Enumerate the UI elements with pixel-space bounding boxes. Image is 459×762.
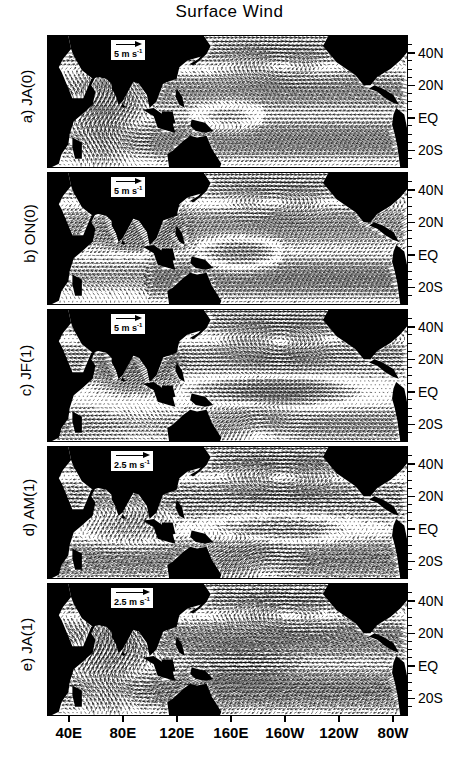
scale-label-b: 5 m s-1 xyxy=(114,185,142,197)
lat-tick-minor xyxy=(408,649,412,650)
lat-tick-minor xyxy=(408,367,412,368)
lat-tick-minor xyxy=(408,399,412,400)
map-panel-c xyxy=(47,309,408,442)
lat-tick xyxy=(408,52,415,54)
wind-vector-map xyxy=(48,310,407,441)
lat-tick-minor xyxy=(408,238,412,239)
lat-tick-minor xyxy=(408,682,412,683)
lat-tick xyxy=(408,326,415,328)
lat-tick xyxy=(408,424,415,426)
lat-tick-minor xyxy=(408,351,412,352)
scale-arrow-e-icon xyxy=(114,589,150,596)
lat-tick-label: 20S xyxy=(418,416,443,432)
lat-tick-minor xyxy=(408,488,412,489)
lat-tick-label: 20S xyxy=(418,690,443,706)
lat-tick-minor xyxy=(408,375,412,376)
panel-label-b-text: b) ON(0) xyxy=(21,204,38,262)
lat-tick-minor xyxy=(408,625,412,626)
lat-tick-minor xyxy=(408,569,412,570)
lat-tick xyxy=(408,633,415,635)
panel-label-d: d) AM(1) xyxy=(0,499,44,516)
lat-tick-minor xyxy=(408,44,412,45)
lat-tick xyxy=(408,391,415,393)
lat-tick-minor xyxy=(408,142,412,143)
panel-label-b: b) ON(0) xyxy=(0,225,44,242)
lat-tick-label: 40N xyxy=(418,456,444,472)
lon-axis: 40E80E120E160E160W120W80W xyxy=(0,716,459,756)
map-panel-e xyxy=(47,583,408,716)
map-panel-a xyxy=(47,35,408,168)
lat-tick-minor xyxy=(408,77,412,78)
lat-tick-label: EQ xyxy=(418,247,438,263)
lat-axis-d: 40N20NEQ20S xyxy=(408,446,458,579)
lat-tick-minor xyxy=(408,536,412,537)
lat-axis-a: 40N20NEQ20S xyxy=(408,35,458,168)
lat-tick-minor xyxy=(408,690,412,691)
panel-label-c-text: c) JF(1) xyxy=(17,345,34,397)
lat-tick-minor xyxy=(408,181,412,182)
lat-tick-minor xyxy=(408,455,412,456)
lon-tick xyxy=(338,716,340,722)
scale-arrow-a-icon xyxy=(114,41,142,48)
lat-tick-label: 20N xyxy=(418,351,444,367)
lat-tick-minor xyxy=(408,416,412,417)
panel-label-c: c) JF(1) xyxy=(0,362,44,379)
vector-scale-a: 5 m s-1 xyxy=(110,39,146,61)
lat-tick-minor xyxy=(408,408,412,409)
scale-label-a: 5 m s-1 xyxy=(114,48,142,60)
lat-axis-b: 40N20NEQ20S xyxy=(408,172,458,305)
lon-tick-label: 160W xyxy=(265,724,304,741)
lat-tick xyxy=(408,496,415,498)
lon-tick-label: 40E xyxy=(55,724,82,741)
panel-label-e-text: e) JA(1) xyxy=(18,618,35,671)
lat-tick-minor xyxy=(408,343,412,344)
lat-tick-label: 40N xyxy=(418,45,444,61)
lon-tick xyxy=(230,716,232,722)
lat-tick xyxy=(408,189,415,191)
lat-tick-label: 40N xyxy=(418,182,444,198)
lat-tick-minor xyxy=(408,134,412,135)
lat-tick-minor xyxy=(408,592,412,593)
scale-label-d: 2.5 m s-1 xyxy=(114,459,150,471)
panel-label-a-text: a) JA(0) xyxy=(18,70,35,123)
lat-tick-minor xyxy=(408,512,412,513)
lat-tick-label: 20N xyxy=(418,488,444,504)
lat-tick-label: 20N xyxy=(418,625,444,641)
scale-arrow-d-icon xyxy=(114,452,150,459)
lat-tick xyxy=(408,222,415,224)
wind-vector-map xyxy=(48,584,407,715)
lat-tick-minor xyxy=(408,657,412,658)
vector-scale-c: 5 m s-1 xyxy=(110,313,146,335)
lat-tick-minor xyxy=(408,246,412,247)
scale-label-c: 5 m s-1 xyxy=(114,322,142,334)
lat-tick-minor xyxy=(408,295,412,296)
surface-wind-figure: Surface Wind a) JA(0) 5 m s-1 40N20NEQ20… xyxy=(0,0,459,762)
panel-label-e: e) JA(1) xyxy=(0,636,44,653)
lat-tick-label: EQ xyxy=(418,384,438,400)
lat-tick-minor xyxy=(408,69,412,70)
lat-axis-e: 40N20NEQ20S xyxy=(408,583,458,716)
lat-tick-minor xyxy=(408,504,412,505)
lat-tick xyxy=(408,463,415,465)
lat-tick-minor xyxy=(408,214,412,215)
scale-label-e: 2.5 m s-1 xyxy=(114,596,150,608)
lon-tick xyxy=(392,716,394,722)
lat-tick-minor xyxy=(408,673,412,674)
lat-tick-label: 40N xyxy=(418,319,444,335)
lat-tick-minor xyxy=(408,334,412,335)
lat-tick-minor xyxy=(408,271,412,272)
lon-tick-label: 80E xyxy=(109,724,136,741)
panel-label-a: a) JA(0) xyxy=(0,88,44,105)
lat-tick xyxy=(408,600,415,602)
lat-tick xyxy=(408,85,415,87)
lat-tick-label: EQ xyxy=(418,521,438,537)
lat-tick-label: 20S xyxy=(418,553,443,569)
lat-tick xyxy=(408,287,415,289)
lat-tick-minor xyxy=(408,230,412,231)
vector-scale-b: 5 m s-1 xyxy=(110,176,146,198)
lat-tick-minor xyxy=(408,553,412,554)
lon-tick xyxy=(284,716,286,722)
lat-tick-minor xyxy=(408,641,412,642)
lon-tick-label: 120W xyxy=(319,724,358,741)
lat-tick-minor xyxy=(408,480,412,481)
